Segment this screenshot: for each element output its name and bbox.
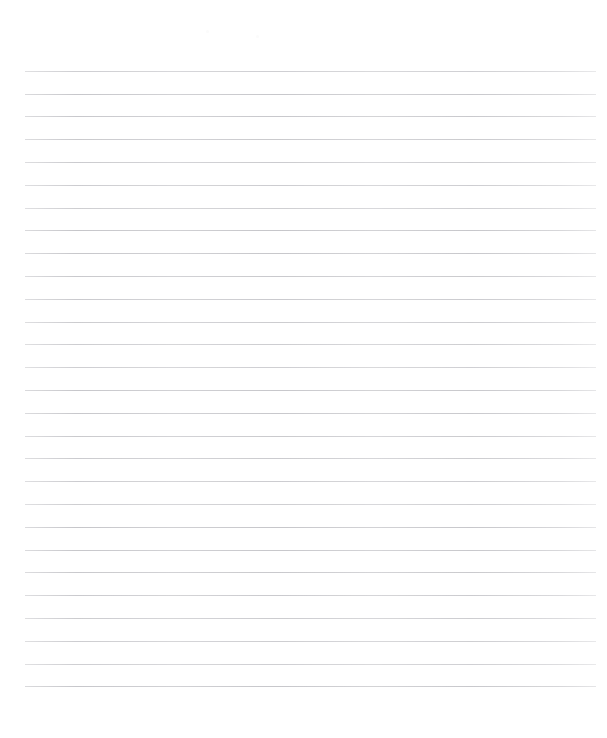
writing-area[interactable] — [0, 0, 607, 738]
lined-paper-page — [0, 0, 607, 738]
